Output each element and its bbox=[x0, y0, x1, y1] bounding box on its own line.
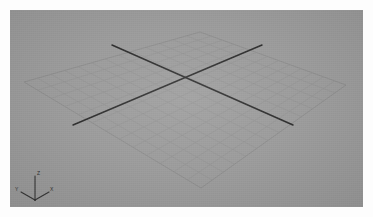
viewport-scene[interactable]: ZYX bbox=[10, 10, 363, 207]
grid-line bbox=[38, 36, 212, 90]
grid-line bbox=[173, 40, 324, 101]
grid-line bbox=[92, 63, 257, 149]
grid-line bbox=[187, 81, 334, 180]
gizmo-origin-dot bbox=[34, 199, 36, 201]
gizmo-axis-z-label: Z bbox=[37, 170, 40, 176]
grid-line bbox=[24, 82, 201, 188]
viewport-3d[interactable]: ZYX bbox=[10, 10, 363, 207]
grid-line bbox=[105, 59, 268, 141]
gizmo-axis-x-label: X bbox=[50, 186, 54, 192]
grid-line bbox=[38, 78, 213, 180]
grid-line bbox=[78, 48, 244, 114]
gizmo-axis-y-label: Y bbox=[15, 186, 19, 192]
grid-line bbox=[147, 69, 302, 156]
screenshot-root: ZYX bbox=[0, 0, 373, 217]
gizmo-axis-y bbox=[21, 192, 35, 200]
grid-line bbox=[201, 85, 346, 188]
grid-line bbox=[200, 32, 346, 85]
grid-line bbox=[174, 77, 324, 172]
grid-line bbox=[106, 56, 268, 130]
gizmo-axis-x bbox=[35, 192, 49, 200]
grid-line bbox=[133, 65, 290, 148]
grid-line bbox=[51, 40, 222, 98]
construction-axis-lines bbox=[73, 45, 293, 125]
axis-orientation-gizmo[interactable]: ZYX bbox=[15, 170, 54, 201]
ground-plane-grid bbox=[24, 32, 346, 188]
